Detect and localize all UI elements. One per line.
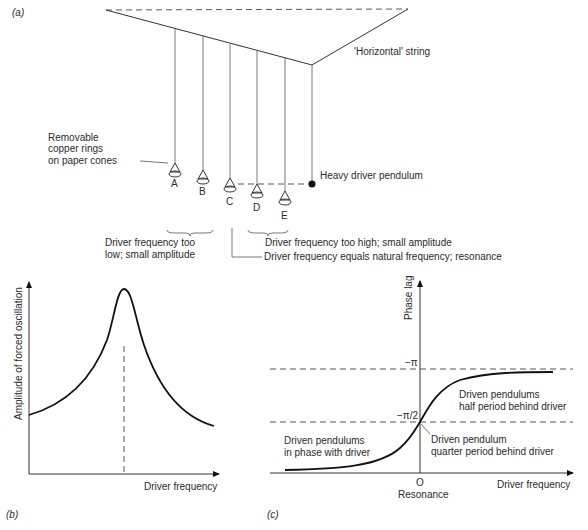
low-freq-label-line1: Driver frequency too [105,237,195,248]
b-x-axis-label: Driver frequency [144,481,217,492]
rings-leader-line [140,161,168,163]
c-annot-quarter-line1: Driven pendulum [431,434,507,445]
panel-a-label: (a) [12,7,24,18]
resonance-leader-line [232,228,262,257]
c-annot-half-line1: Driven pendulums [459,389,540,400]
resonance-label: Driver frequency equals natural frequenc… [264,251,502,262]
rings-label-line3: on paper cones [48,155,117,166]
c-tick-minus-pi: −π [405,357,418,368]
cone-d-icon [251,184,263,198]
c-quarter-leader-line [421,424,430,434]
high-freq-label: Driver frequency too high; small amplitu… [265,237,452,248]
c-resonance-label: Resonance [398,489,449,500]
c-origin-label: O [416,477,424,488]
rings-label-line1: Removable [48,132,99,143]
brace-high-icon [248,230,288,236]
cone-a-icon [169,163,181,177]
panel-b-resonance-chart: Amplitude of forced oscillation Driver f… [6,282,219,520]
c-annot-in-phase-line2: in phase with driver [284,447,371,458]
pendulum-label-a: A [171,178,178,189]
cone-e-icon [279,191,291,205]
c-annot-in-phase-line1: Driven pendulums [284,435,365,446]
support-dashed-line [106,9,408,10]
figure-canvas: (a) 'Horizontal' string Heavy [0,0,588,530]
c-tick-minus-half-pi: −π/2 [397,410,419,421]
panel-c-label: (c) [267,509,279,520]
b-amplitude-curve [29,289,214,426]
panel-a-pendulums: (a) 'Horizontal' string Heavy [12,7,502,262]
cone-c-icon [224,178,236,192]
panel-b-label: (b) [6,509,18,520]
b-y-axis-label: Amplitude of forced oscillation [13,287,24,420]
cone-b-icon [197,170,209,184]
pendulum-label-d: D [253,202,260,213]
pendulum-label-c: C [226,196,233,207]
c-annot-quarter-line2: quarter period behind driver [431,446,555,457]
c-y-axis-label: Phase lag [403,276,414,320]
horizontal-string-label: 'Horizontal' string [354,46,430,57]
brace-low-icon [167,230,213,236]
c-annot-half-line2: half period behind driver [459,401,567,412]
pendulum-label-e: E [281,210,288,221]
driver-label: Heavy driver pendulum [320,170,423,181]
c-x-axis-label: Driver frequency [497,479,570,490]
low-freq-label-line2: low; small amplitude [105,249,195,260]
pendulum-label-b: B [199,186,206,197]
rings-label-line2: copper rings [48,143,103,154]
driver-bob-icon [309,181,316,188]
horizontal-string [106,10,312,65]
resonance-figure: (a) 'Horizontal' string Heavy [0,0,588,530]
panel-c-phase-chart: Phase lag Driver frequency O Resonance −… [267,276,573,520]
